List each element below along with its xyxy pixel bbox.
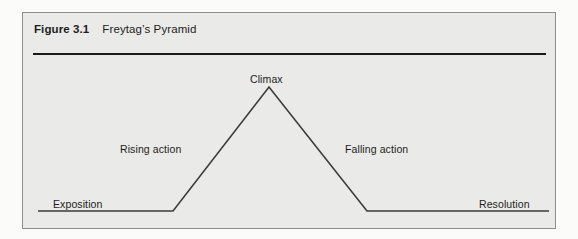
- figure-panel: Figure 3.1Freytag’s Pyramid Climax Risin…: [22, 12, 556, 229]
- freytag-pyramid-chart: [23, 13, 557, 230]
- figure-root: Figure 3.1Freytag’s Pyramid Climax Risin…: [0, 0, 578, 239]
- label-climax: Climax: [250, 73, 283, 85]
- label-resolution: Resolution: [479, 198, 530, 210]
- label-rising-action: Rising action: [120, 143, 181, 155]
- label-exposition: Exposition: [53, 198, 102, 210]
- dramatic-structure-line: [38, 87, 549, 211]
- label-falling-action: Falling action: [345, 143, 408, 155]
